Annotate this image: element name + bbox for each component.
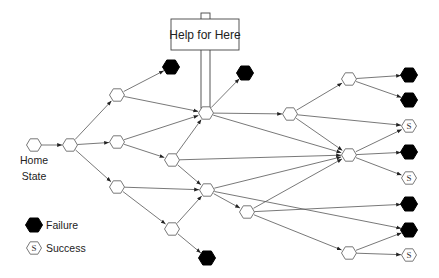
state-node bbox=[342, 73, 357, 85]
state-hexagon-icon bbox=[199, 107, 214, 119]
success-node: S bbox=[402, 249, 417, 261]
state-hexagon-icon bbox=[240, 206, 255, 218]
state-hexagon-icon bbox=[110, 181, 125, 193]
state-node bbox=[342, 247, 357, 259]
edge-n2a-to-n3 bbox=[124, 97, 198, 112]
failure-node bbox=[237, 66, 254, 80]
edge-n8-to-r6 bbox=[255, 204, 402, 211]
state-hexagon-icon bbox=[342, 247, 357, 259]
edge-n8-to-n11 bbox=[254, 215, 342, 250]
edge-n7-to-r3 bbox=[298, 115, 402, 125]
failure-hexagon-icon bbox=[401, 68, 418, 82]
edge-n6-to-n5 bbox=[177, 196, 202, 223]
failure-node bbox=[401, 223, 418, 237]
edge-n11-to-r8 bbox=[357, 253, 402, 255]
home-state-node bbox=[27, 139, 42, 151]
state-hexagon-icon bbox=[27, 139, 42, 151]
edge-n10-to-r5 bbox=[356, 158, 402, 175]
failure-node bbox=[163, 60, 180, 74]
edge-n7-to-n9 bbox=[297, 83, 343, 110]
state-hexagon-icon bbox=[342, 73, 357, 85]
home-state-label: Home State bbox=[20, 154, 48, 182]
edge-n1-to-n2b bbox=[78, 143, 110, 145]
state-node bbox=[283, 108, 298, 120]
edge-n1-to-n2a bbox=[75, 101, 111, 140]
state-node bbox=[63, 139, 78, 151]
failure-node bbox=[199, 251, 216, 265]
success-node: S bbox=[402, 120, 417, 132]
state-node bbox=[200, 184, 215, 196]
edge-n8-to-n10 bbox=[254, 159, 343, 208]
failure-node bbox=[401, 93, 418, 107]
legend: Failure S Success bbox=[26, 218, 86, 254]
failure-hexagon-icon bbox=[237, 66, 254, 80]
failure-hexagon-icon bbox=[401, 145, 418, 159]
state-hexagon-icon bbox=[165, 154, 180, 166]
legend-success-label: Success bbox=[46, 242, 86, 254]
state-hexagon-icon bbox=[200, 184, 215, 196]
failure-hexagon-icon bbox=[163, 60, 180, 74]
help-for-here-signpost: Help for Here bbox=[169, 13, 241, 108]
state-hexagon-icon bbox=[342, 149, 357, 161]
edge-n5-to-n10 bbox=[214, 157, 341, 188]
success-glyph: S bbox=[31, 243, 36, 253]
legend-success: S Success bbox=[27, 242, 86, 254]
state-hexagon-icon bbox=[165, 223, 180, 235]
success-glyph: S bbox=[406, 250, 411, 260]
failure-node bbox=[401, 197, 418, 211]
state-node bbox=[110, 181, 125, 193]
edge-n4-to-n3 bbox=[176, 120, 201, 154]
edge-n11-to-r7 bbox=[356, 233, 402, 250]
edge-n3-to-n7 bbox=[214, 113, 283, 114]
state-node bbox=[110, 136, 125, 148]
state-hexagon-icon bbox=[63, 139, 78, 151]
state-hexagon-icon bbox=[110, 89, 125, 101]
edge-n4-to-n5 bbox=[178, 165, 201, 185]
success-glyph: S bbox=[406, 173, 411, 183]
edge-n9-to-r1 bbox=[357, 76, 402, 79]
edge-n2b-to-n3 bbox=[124, 116, 198, 140]
state-node bbox=[165, 223, 180, 235]
edge-n3-to-f2 bbox=[211, 79, 239, 108]
legend-failure-label: Failure bbox=[46, 219, 78, 231]
state-nodes: SSS bbox=[27, 60, 418, 265]
failure-hexagon-icon bbox=[401, 223, 418, 237]
edge-n10-to-r4 bbox=[357, 152, 402, 154]
failure-hexagon-icon bbox=[401, 197, 418, 211]
edge-n9-to-r2 bbox=[356, 82, 401, 98]
legend-failure: Failure bbox=[26, 218, 79, 232]
state-node bbox=[240, 206, 255, 218]
edge-n2c-to-n5 bbox=[125, 187, 200, 190]
edge-n1-to-n2c bbox=[76, 150, 111, 182]
success-node: S bbox=[402, 172, 417, 184]
sign-label: Help for Here bbox=[169, 28, 241, 42]
edge-n10-to-r3 bbox=[356, 130, 402, 152]
state-node bbox=[199, 107, 214, 119]
edge-n6-to-f3 bbox=[178, 234, 201, 253]
navigation-state-diagram: Help for Here SSS Home State Failure S S… bbox=[0, 0, 439, 278]
state-node bbox=[165, 154, 180, 166]
home-label-line1: Home bbox=[20, 154, 48, 166]
edge-n3-to-n10 bbox=[213, 115, 341, 153]
transition-edges bbox=[42, 71, 402, 255]
edge-n7-to-n10 bbox=[296, 118, 342, 150]
state-hexagon-icon bbox=[283, 108, 298, 120]
failure-hexagon-icon bbox=[26, 218, 43, 232]
failure-node bbox=[401, 68, 418, 82]
edge-n4-to-n10 bbox=[180, 155, 342, 160]
home-label-line2: State bbox=[22, 170, 47, 182]
failure-hexagon-icon bbox=[199, 251, 216, 265]
success-glyph: S bbox=[406, 121, 411, 131]
edge-n2a-to-f1 bbox=[124, 71, 164, 92]
edge-n2b-to-n4 bbox=[124, 144, 164, 157]
state-node bbox=[110, 89, 125, 101]
failure-node bbox=[401, 145, 418, 159]
failure-hexagon-icon bbox=[401, 93, 418, 107]
state-node bbox=[342, 149, 357, 161]
state-hexagon-icon bbox=[110, 136, 125, 148]
edge-n2c-to-n6 bbox=[123, 192, 166, 225]
